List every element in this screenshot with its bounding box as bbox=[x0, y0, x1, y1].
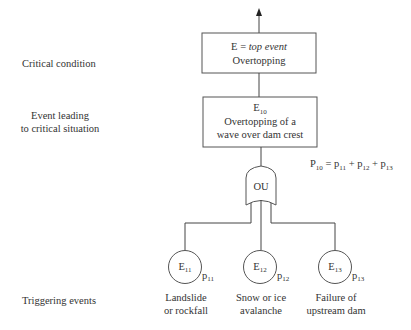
intermediate-event-line1: Overtopping of a bbox=[224, 116, 296, 127]
connector-gate-e11 bbox=[185, 223, 251, 250]
level-label-critical: Critical condition bbox=[22, 58, 97, 69]
event-description-line1: Snow or ice bbox=[236, 292, 286, 303]
event-probability: p13 bbox=[352, 270, 365, 283]
basic-event-e13: E13 p13 Failure of upstream dam bbox=[306, 251, 365, 317]
event-description-line1: Landslide bbox=[165, 292, 207, 303]
probability-equation: P10 = p11 + p12 + p13 bbox=[310, 158, 393, 172]
event-description-line2: avalanche bbox=[240, 305, 282, 316]
top-event-box bbox=[202, 33, 316, 73]
level-label-event-1: Event leading bbox=[31, 110, 90, 121]
event-description-line1: Failure of bbox=[315, 292, 357, 303]
top-event-label: Overtopping bbox=[232, 55, 286, 66]
event-description-line2: upstream dam bbox=[306, 305, 365, 316]
basic-event-e11: E11 p11 Landslide or rockfall bbox=[164, 251, 215, 317]
basic-event-e12: E12 p12 Snow or ice avalanche bbox=[236, 251, 290, 317]
event-description-line2: or rockfall bbox=[164, 305, 208, 316]
or-gate-label: OU bbox=[253, 181, 269, 192]
top-event-title: E = top event bbox=[231, 41, 288, 52]
level-label-event-2: to critical situation bbox=[21, 123, 100, 134]
event-probability: p12 bbox=[277, 270, 290, 283]
fault-tree-diagram: Critical condition Event leading to crit… bbox=[0, 0, 411, 330]
intermediate-event-line2: wave over dam crest bbox=[217, 129, 304, 140]
connector-gate-e13 bbox=[271, 223, 335, 250]
event-probability: p11 bbox=[202, 270, 214, 283]
arrowhead-icon bbox=[256, 8, 262, 16]
level-label-triggering: Triggering events bbox=[22, 295, 96, 306]
